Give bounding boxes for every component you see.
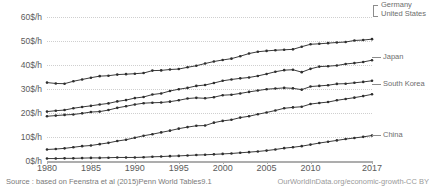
legend-bracket-germany-us (373, 5, 378, 17)
data-point (292, 68, 295, 71)
data-point (292, 106, 295, 109)
data-point (362, 136, 365, 139)
data-point (283, 48, 286, 51)
data-point (134, 97, 137, 100)
data-point (195, 85, 198, 88)
data-point (344, 82, 347, 85)
data-point (204, 84, 207, 87)
data-point (318, 142, 321, 145)
data-point (107, 102, 110, 105)
data-point (134, 156, 137, 159)
data-point (54, 82, 57, 85)
y-tick-label-10: 10$/h (21, 132, 42, 142)
data-point (63, 109, 66, 112)
data-point (46, 157, 49, 160)
data-point (283, 69, 286, 72)
data-point (98, 143, 101, 146)
data-point (116, 100, 119, 103)
legend-label-south-korea[interactable]: South Korea (383, 80, 425, 89)
data-point (336, 139, 339, 142)
source-text: Source : based on Feenstra et al (2015)P… (6, 177, 212, 186)
data-point (353, 62, 356, 65)
data-point (186, 154, 189, 157)
data-point (98, 75, 101, 78)
data-point (90, 105, 93, 108)
data-point (142, 134, 145, 137)
data-point (151, 155, 154, 158)
data-point (221, 153, 224, 156)
data-point (221, 59, 224, 62)
data-point (151, 133, 154, 136)
data-point (169, 100, 172, 103)
x-tick-mark (311, 161, 312, 164)
data-point (274, 70, 277, 73)
data-point (283, 147, 286, 150)
data-point (107, 109, 110, 112)
data-point (169, 68, 172, 71)
data-point (327, 140, 330, 143)
data-point (142, 96, 145, 99)
data-point (239, 92, 242, 95)
data-point (336, 41, 339, 44)
data-point (195, 124, 198, 127)
legend-leader-china (372, 135, 381, 136)
series-line-china (47, 136, 372, 159)
series-line-united-states (47, 39, 372, 84)
data-point (371, 38, 374, 41)
data-point (230, 93, 233, 96)
data-point (362, 39, 365, 42)
x-tick-mark (267, 161, 268, 164)
data-point (309, 68, 312, 71)
data-point (362, 95, 365, 98)
data-point (265, 111, 268, 114)
data-point (107, 74, 110, 77)
data-point (63, 147, 66, 150)
data-point (239, 116, 242, 119)
data-point (353, 82, 356, 85)
data-point (292, 87, 295, 90)
plot-area: 60$/h 50$/h 40$/h 30$/h 20$/h 10$/h 0$/h… (47, 17, 372, 161)
data-point (54, 114, 57, 117)
data-point (336, 99, 339, 102)
data-point (353, 137, 356, 140)
data-point (274, 109, 277, 112)
data-point (300, 145, 303, 148)
data-point (230, 152, 233, 155)
data-point (371, 59, 374, 62)
data-point (177, 155, 180, 158)
legend-label-japan[interactable]: Japan (383, 53, 403, 62)
data-point (63, 157, 66, 160)
data-point (81, 106, 84, 109)
data-point (142, 72, 145, 75)
data-point (98, 103, 101, 106)
data-point (125, 73, 128, 76)
data-point (72, 157, 75, 160)
legend-label-united-states[interactable]: United States (381, 10, 426, 19)
data-point (46, 148, 49, 151)
data-point (195, 97, 198, 100)
data-point (257, 50, 260, 53)
x-tick-mark (47, 161, 48, 164)
data-point (257, 150, 260, 153)
data-point (116, 73, 119, 76)
data-point (300, 105, 303, 108)
data-point (81, 157, 84, 160)
data-point (54, 148, 57, 151)
data-point (344, 98, 347, 101)
data-point (248, 52, 251, 55)
data-point (81, 78, 84, 81)
x-tick-mark (223, 161, 224, 164)
y-tick-label-40: 40$/h (21, 60, 42, 70)
data-point (230, 57, 233, 60)
data-point (151, 101, 154, 104)
data-point (90, 144, 93, 147)
data-point (344, 41, 347, 44)
data-point (327, 65, 330, 68)
data-point (46, 81, 49, 84)
legend-label-china[interactable]: China (383, 131, 403, 140)
data-point (134, 103, 137, 106)
attribution-text: OurWorldInData.org/economic-growth-CC BY (277, 177, 429, 186)
chart-container: 60$/h 50$/h 40$/h 30$/h 20$/h 10$/h 0$/h… (0, 0, 435, 194)
series-line-south-korea (47, 94, 372, 149)
data-point (72, 107, 75, 110)
